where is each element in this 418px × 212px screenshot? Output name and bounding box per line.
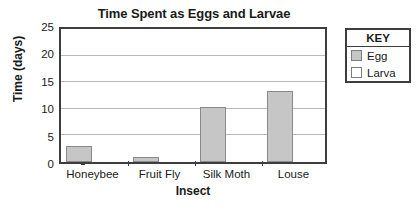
legend-entry-larva[interactable]: Larva (347, 64, 409, 81)
x-axis-tick-label-louse: Louse (260, 168, 327, 180)
x-axis-tick-label-honeybee: Honeybee (59, 168, 126, 180)
y-axis-tick-label: 20 (30, 48, 54, 60)
x-axis-tick-labels: HoneybeeFruit FlySilk MothLouse (59, 168, 327, 184)
legend-label: Egg (367, 50, 387, 62)
x-axis-tick-mark (195, 161, 196, 166)
x-axis-title: Insect (59, 184, 327, 198)
bar-egg-silk-moth[interactable] (200, 107, 225, 162)
legend-entries: EggLarva (347, 47, 409, 81)
legend-swatch-icon (351, 67, 362, 78)
chart-title: Time Spent as Eggs and Larvae (58, 6, 330, 21)
bar-group (61, 29, 128, 162)
x-axis-tick-mark (262, 161, 263, 166)
y-axis-tick-label: 25 (30, 21, 54, 33)
x-axis-tick-label-fruit-fly: Fruit Fly (126, 168, 193, 180)
legend-entry-egg[interactable]: Egg (347, 47, 409, 64)
y-axis-title: Time (days) (11, 19, 25, 119)
plot-area (59, 27, 327, 164)
legend: KEY EggLarva (345, 28, 411, 83)
plot-inner (61, 29, 325, 162)
x-axis-tick-mark (128, 161, 129, 166)
bar-egg-fruit-fly[interactable] (133, 157, 158, 162)
y-axis-tick-label: 10 (30, 103, 54, 115)
bar-chart-figure: Time Spent as Eggs and Larvae Time (days… (0, 0, 418, 212)
bar-group (128, 29, 195, 162)
bar-group (195, 29, 262, 162)
legend-label: Larva (367, 67, 396, 79)
y-axis-tick-label: 5 (30, 131, 54, 143)
x-axis-tick-label-silk-moth: Silk Moth (193, 168, 260, 180)
y-axis-tick-label: 0 (30, 158, 54, 170)
bar-egg-louse[interactable] (267, 91, 292, 162)
y-axis-tick-mark (81, 164, 85, 165)
y-axis-tick-label: 15 (30, 76, 54, 88)
bar-egg-honeybee[interactable] (66, 146, 91, 162)
legend-title: KEY (347, 30, 409, 47)
bar-group (262, 29, 329, 162)
legend-swatch-icon (351, 50, 362, 61)
y-axis-tick-labels: 0510152025 (26, 27, 54, 164)
